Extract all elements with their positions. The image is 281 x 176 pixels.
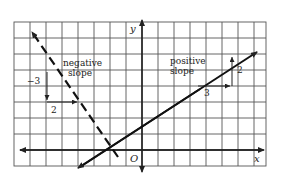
positive-slope-label-2: slope xyxy=(170,66,194,76)
slope-diagram: y x O negative slope −3 2 positive slope… xyxy=(0,0,281,176)
negative-rise-label: −3 xyxy=(27,76,41,86)
negative-slope-line xyxy=(32,32,118,157)
positive-rise-label: 2 xyxy=(237,65,243,75)
negative-run-label: 2 xyxy=(51,105,57,115)
negative-slope-label-1: negative xyxy=(63,58,102,68)
positive-run-label: 3 xyxy=(204,88,210,98)
grid xyxy=(14,22,266,166)
negative-slope-label-2: slope xyxy=(68,68,92,78)
origin-label: O xyxy=(130,153,138,164)
axes xyxy=(20,20,264,172)
y-axis-label: y xyxy=(129,23,136,34)
x-axis-label: x xyxy=(254,153,260,164)
positive-slope-line-start xyxy=(78,89,200,168)
positive-slope-label-1: positive xyxy=(170,56,206,66)
